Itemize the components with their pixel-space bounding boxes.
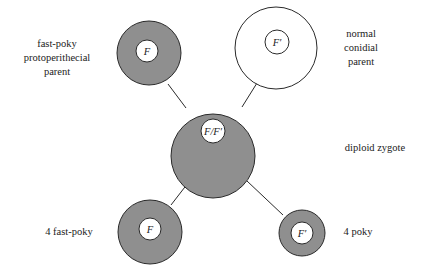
node-fast-poky-parent: F (117, 21, 181, 85)
node-poky-progeny: F′ (279, 210, 325, 256)
edge-fast-poky-parent-to-zygote (168, 84, 186, 108)
label-line: 4 fast-poky (38, 225, 100, 239)
gene-label: F′ (297, 228, 307, 239)
label-line: parent (331, 55, 391, 69)
node-normal-parent: F′ (235, 7, 317, 89)
label-line: conidial (331, 41, 391, 55)
node-zygote: F/F′ (171, 114, 255, 198)
label-zygote: diploid zygote (340, 141, 410, 155)
label-line: protoperithecial (17, 51, 97, 65)
edge-zygote-to-poky-progeny (247, 181, 283, 215)
label-fast-poky-progeny: 4 fast-poky (38, 225, 100, 239)
label-line: normal (331, 27, 391, 41)
edge-normal-parent-to-zygote (242, 83, 257, 107)
label-line: diploid zygote (340, 141, 410, 155)
label-line: 4 poky (338, 225, 378, 239)
gene-label: F (146, 224, 154, 235)
gene-label: F′ (272, 37, 282, 48)
gene-label: F/F′ (203, 126, 223, 137)
label-line: fast-poky (17, 37, 97, 51)
gene-label: F (143, 46, 151, 57)
label-line: parent (17, 65, 97, 79)
label-fast-poky-parent: fast-poky protoperithecial parent (17, 37, 97, 79)
label-poky-progeny: 4 poky (338, 225, 378, 239)
label-normal-parent: normal conidial parent (331, 27, 391, 69)
node-fast-poky-progeny: F (118, 200, 182, 264)
